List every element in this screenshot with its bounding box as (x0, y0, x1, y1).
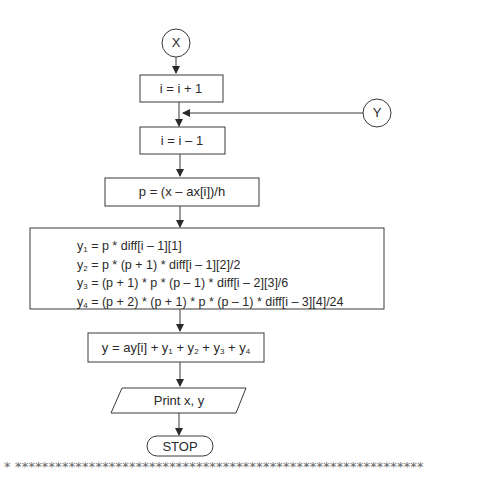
term-y4: y4 = (p + 2) * (p + 1) * p * (p – 1) * d… (77, 295, 344, 314)
connector-x-label: X (172, 35, 181, 50)
separator-line: * **************************************… (4, 459, 424, 474)
compute-p-step: p = (x – ax[i])/h (139, 184, 225, 199)
term-y3: y3 = (p + 1) * p * (p – 1) * diff[i – 2]… (77, 276, 344, 295)
stop-terminator: STOP (162, 439, 197, 454)
decrement-step: i = i – 1 (161, 133, 203, 148)
term-y2: y2 = p * (p + 1) * diff[i – 1][2]/2 (77, 258, 344, 277)
sum-step: y = ay[i] + y1 + y2 + y3 + y4 (102, 340, 250, 356)
print-output-step: Print x, y (154, 393, 205, 408)
term-y1: y1 = p * diff[i – 1][1] (77, 239, 344, 258)
increment-step: i = i + 1 (160, 81, 203, 96)
connector-y-label: Y (373, 105, 382, 120)
compute-terms-step: y1 = p * diff[i – 1][1] y2 = p * (p + 1)… (77, 239, 344, 313)
